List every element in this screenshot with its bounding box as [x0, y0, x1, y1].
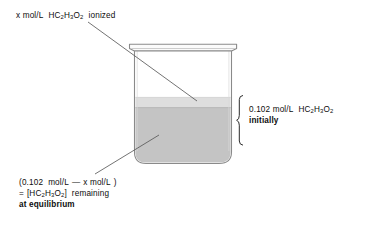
equilibrium-line3: at equilibrium — [19, 199, 117, 210]
diagram-canvas: x mol/LHC2H3O2ionized 0.102 mol/LHC2H3O2… — [0, 0, 372, 226]
equilibrium-line2: =[HC2H3O2]remaining — [19, 188, 117, 199]
initial-concentration-line2: initially — [249, 115, 334, 126]
ionized-label: x mol/LHC2H3O2ionized — [16, 10, 116, 21]
equilibrium-line1: (0.102mol/L—x mol/L) — [19, 177, 117, 188]
height-brace-icon — [237, 96, 243, 146]
ionized-label-lead: x mol/L — [16, 11, 43, 20]
equilibrium-concentration-label: (0.102mol/L—x mol/L) =[HC2H3O2]remaining… — [19, 177, 117, 211]
liquid-surface-band — [135, 97, 230, 107]
ionized-label-trail: ionized — [89, 11, 116, 20]
beaker-rim — [130, 44, 237, 51]
ionized-label-formula: HC2H3O2 — [48, 11, 83, 20]
equilibrium-formula: [HC2H3O2] — [27, 189, 67, 198]
liquid-body — [135, 108, 230, 163]
initial-concentration-label: 0.102 mol/LHC2H3O2 initially — [249, 104, 334, 126]
initial-concentration-line1: 0.102 mol/LHC2H3O2 — [249, 104, 334, 115]
initial-concentration-formula: HC2H3O2 — [298, 105, 333, 114]
